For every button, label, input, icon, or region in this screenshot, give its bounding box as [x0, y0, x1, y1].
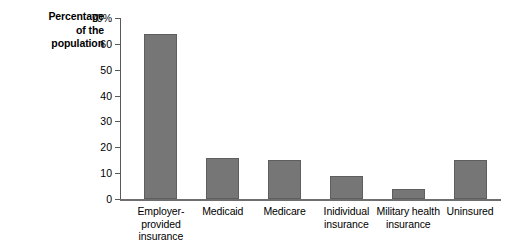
- bar: [206, 158, 239, 199]
- y-tick-label: 20: [100, 142, 112, 153]
- category-label-line: Military health: [373, 205, 443, 218]
- category-label-line: Inidividual: [312, 205, 382, 218]
- category-label-line: insurance: [373, 218, 443, 231]
- y-axis-title-line-3: population: [0, 37, 104, 51]
- category-label-line: Medicare: [250, 205, 320, 218]
- y-tick-mark: [115, 121, 120, 122]
- category-label: Employer-providedinsurance: [126, 205, 196, 242]
- y-tick-mark: [115, 44, 120, 45]
- bar-chart-figure: Percentage of the population 01020304050…: [0, 0, 511, 242]
- y-tick-label: 0: [106, 194, 112, 205]
- y-tick-label: 50: [100, 64, 112, 75]
- y-tick-mark: [115, 173, 120, 174]
- y-tick-label: 30: [100, 116, 112, 127]
- plot-area: 010203040506070% Employer-providedinsura…: [120, 18, 501, 199]
- category-label-line: Employer-provided: [126, 205, 196, 230]
- category-label-line: insurance: [312, 218, 382, 231]
- bar: [454, 160, 487, 199]
- category-label-line: insurance: [126, 230, 196, 242]
- y-axis-title-line-2: of the: [0, 24, 104, 38]
- y-axis-title-line-1: Percentage: [0, 10, 104, 24]
- y-axis-line: [120, 18, 121, 199]
- y-tick-mark: [115, 147, 120, 148]
- bar: [392, 189, 425, 199]
- y-tick-mark: [115, 18, 120, 19]
- category-label: Inidividualinsurance: [312, 205, 382, 230]
- category-label-line: Uninsured: [435, 205, 505, 218]
- category-label: Medicaid: [188, 205, 258, 218]
- x-axis-line: [120, 199, 501, 201]
- y-tick-label: 60: [100, 39, 112, 50]
- category-label: Military healthinsurance: [373, 205, 443, 230]
- bar: [144, 34, 177, 199]
- y-tick-label: 10: [100, 168, 112, 179]
- bar: [268, 160, 301, 199]
- y-tick-label: 40: [100, 90, 112, 101]
- y-tick-mark: [115, 96, 120, 97]
- category-label: Medicare: [250, 205, 320, 218]
- y-tick-mark: [115, 70, 120, 71]
- category-label: Uninsured: [435, 205, 505, 218]
- bar: [330, 176, 363, 199]
- category-label-line: Medicaid: [188, 205, 258, 218]
- y-tick-mark: [115, 199, 120, 200]
- y-tick-label: 70%: [91, 13, 112, 24]
- y-axis-title: Percentage of the population: [0, 10, 104, 51]
